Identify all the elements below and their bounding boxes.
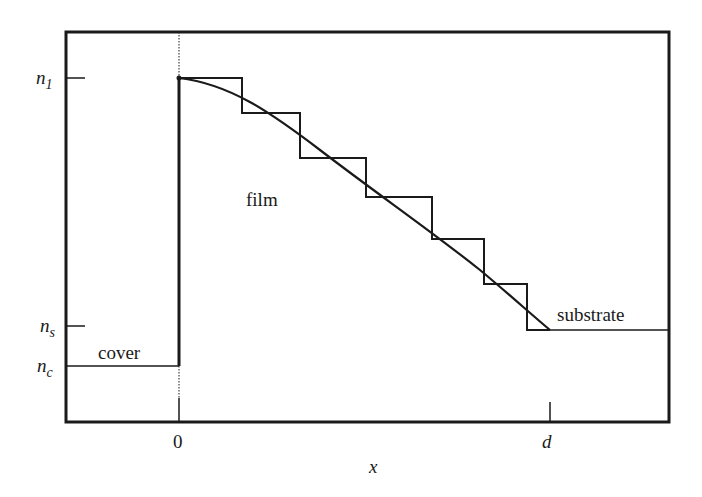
- label-ns-sub: s: [50, 325, 55, 340]
- label-ns-base: n: [40, 315, 50, 336]
- region-label-substrate: substrate: [557, 305, 625, 324]
- refractive-index-profile-diagram: n1 ns nc cover film substrate 0 d x: [0, 0, 702, 497]
- label-n1: n1: [36, 68, 53, 87]
- label-n1-sub: 1: [46, 77, 53, 92]
- label-nc-base: n: [37, 355, 47, 376]
- x-tick-label-zero: 0: [173, 432, 183, 451]
- plot-frame: [66, 32, 669, 422]
- x-tick-label-d: d: [542, 432, 552, 451]
- step-index-staircase: [179, 78, 550, 330]
- label-n1-base: n: [36, 67, 46, 88]
- region-label-film: film: [246, 190, 278, 209]
- label-ns: ns: [40, 316, 55, 335]
- x-axis-label: x: [369, 457, 377, 476]
- label-nc: nc: [37, 356, 53, 375]
- diagram-canvas: [0, 0, 702, 497]
- label-nc-sub: c: [47, 365, 53, 380]
- region-label-cover: cover: [98, 343, 140, 362]
- graded-index-curve: [179, 78, 550, 330]
